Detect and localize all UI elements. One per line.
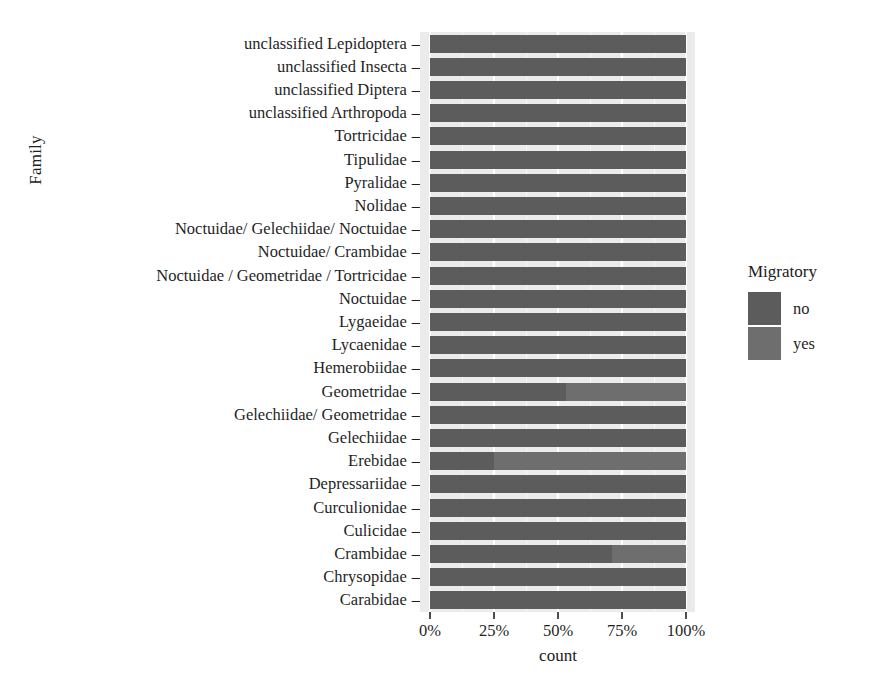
bar-segment-no (430, 174, 686, 192)
bar-row (430, 429, 686, 447)
legend: Migratory noyes (748, 262, 863, 361)
bar-segment-no (430, 475, 686, 493)
y-tick-dash-icon: – (412, 426, 420, 450)
legend-item-no[interactable]: no (748, 291, 863, 326)
bar-row (430, 267, 686, 285)
y-tick-dash-icon: – (412, 472, 420, 496)
y-tick-label: Lycaenidae– (332, 333, 420, 357)
y-tick-label: unclassified Arthropoda– (249, 101, 420, 125)
bar-segment-no (430, 383, 566, 401)
y-tick-label-text: unclassified Lepidoptera (244, 34, 407, 53)
bar-row (430, 127, 686, 145)
y-tick-label-text: unclassified Arthropoda (249, 103, 407, 122)
y-tick-label-text: Hemerobiidae (313, 358, 406, 377)
bar-segment-no (430, 499, 686, 517)
bar-segment-yes (494, 452, 686, 470)
bar-segment-no (430, 58, 686, 76)
y-tick-dash-icon: – (412, 496, 420, 520)
x-tick-mark (557, 612, 558, 619)
y-tick-dash-icon: – (412, 356, 420, 380)
y-tick-label: Noctuidae / Geometridae / Tortricidae– (156, 264, 420, 288)
y-tick-label: unclassified Diptera– (274, 78, 420, 102)
y-tick-label-text: Lygaeidae (339, 312, 407, 331)
y-tick-label-text: Erebidae (348, 451, 407, 470)
y-tick-dash-icon: – (412, 565, 420, 589)
y-tick-label-text: Noctuidae (339, 289, 407, 308)
bar-row (430, 406, 686, 424)
bar-segment-no (430, 568, 686, 586)
x-axis-ticks: 0%25%50%75%100% (420, 612, 695, 646)
bar-row (430, 313, 686, 331)
bar-segment-no (430, 452, 494, 470)
y-tick-dash-icon: – (412, 333, 420, 357)
y-tick-label: Geometridae– (322, 380, 420, 404)
bar-segment-no (430, 545, 612, 563)
y-tick-label: unclassified Lepidoptera– (244, 32, 420, 56)
bar-row (430, 475, 686, 493)
bar-segment-no (430, 151, 686, 169)
y-tick-label-text: Nolidae (355, 196, 407, 215)
bar-row (430, 81, 686, 99)
bar-segment-no (430, 35, 686, 53)
y-tick-dash-icon: – (412, 55, 420, 79)
y-tick-label-text: unclassified Insecta (277, 57, 407, 76)
x-tick-label: 0% (419, 621, 441, 641)
y-tick-label: Curculionidae– (313, 496, 420, 520)
x-tick-mark (621, 612, 622, 619)
x-tick-mark (685, 612, 686, 619)
y-tick-label-text: Noctuidae/ Gelechiidae/ Noctuidae (175, 219, 407, 238)
y-tick-dash-icon: – (412, 101, 420, 125)
x-tick-label: 50% (543, 621, 573, 641)
y-tick-label: Lygaeidae– (339, 310, 420, 334)
bar-segment-no (430, 406, 686, 424)
y-tick-label-text: unclassified Diptera (274, 80, 406, 99)
y-tick-label: Hemerobiidae– (313, 356, 420, 380)
bar-row (430, 522, 686, 540)
legend-label: yes (793, 334, 815, 354)
y-axis-tick-labels: unclassified Lepidoptera–unclassified In… (60, 33, 420, 611)
legend-item-yes[interactable]: yes (748, 326, 863, 361)
y-tick-dash-icon: – (412, 78, 420, 102)
y-tick-dash-icon: – (412, 264, 420, 288)
bar-segment-no (430, 522, 686, 540)
y-tick-label-text: Crambidae (334, 544, 406, 563)
y-tick-dash-icon: – (412, 124, 420, 148)
y-tick-label: Nolidae– (355, 194, 420, 218)
x-tick-mark (429, 612, 430, 619)
x-tick-label: 75% (607, 621, 637, 641)
bar-segment-no (430, 197, 686, 215)
bar-row (430, 383, 686, 401)
bar-segment-no (430, 104, 686, 122)
bar-row (430, 151, 686, 169)
y-tick-label: Crambidae– (334, 542, 420, 566)
y-tick-label-text: Tortricidae (335, 126, 407, 145)
bar-segment-no (430, 591, 686, 609)
y-tick-label-text: Pyralidae (344, 173, 406, 192)
bar-row (430, 568, 686, 586)
y-tick-label-text: Carabidae (340, 590, 407, 609)
y-tick-label: Tortricidae– (335, 124, 420, 148)
y-tick-label: Erebidae– (348, 449, 420, 473)
legend-label: no (793, 299, 810, 319)
y-tick-label-text: Curculionidae (313, 498, 406, 517)
bar-segment-no (430, 267, 686, 285)
bar-segment-yes (566, 383, 686, 401)
y-tick-label: Pyralidae– (344, 171, 420, 195)
legend-swatch-no (748, 292, 781, 325)
plot-panel (420, 32, 695, 612)
x-tick-mark (493, 612, 494, 619)
y-tick-label: Noctuidae/ Gelechiidae/ Noctuidae– (175, 217, 420, 241)
y-tick-dash-icon: – (412, 519, 420, 543)
y-tick-label: Depressariidae– (309, 472, 420, 496)
y-tick-label: Tipulidae– (344, 148, 420, 172)
y-tick-label: Carabidae– (340, 588, 420, 612)
bar-segment-no (430, 290, 686, 308)
y-tick-dash-icon: – (412, 217, 420, 241)
bar-row (430, 499, 686, 517)
y-tick-label: Culicidae– (344, 519, 420, 543)
bar-row (430, 174, 686, 192)
y-tick-label: Chrysopidae– (323, 565, 420, 589)
bar-row (430, 452, 686, 470)
bar-segment-no (430, 359, 686, 377)
y-axis-title: Family (26, 70, 46, 250)
